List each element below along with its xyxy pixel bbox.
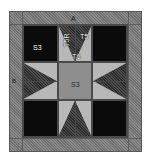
point-unit-seam-left [24,81,57,82]
label-border-left-b: B [12,78,16,84]
star-point-unit-bottom [58,100,93,137]
label-point-t6: T6 [72,53,81,60]
label-point-t5r: T5R [63,33,70,47]
star-point-unit-left [23,62,58,99]
label-point-t5: T5 [80,33,89,40]
border-seam-bottom [10,138,141,139]
point-unit-seam-right [93,81,126,82]
quilt-block-diagram: A B S3 S3 T5 T5R T6 [0,0,151,162]
label-border-top-a: A [71,15,76,22]
corner-square-top-right [92,25,127,62]
label-center-square-s3: S3 [71,81,80,88]
star-point-unit-right [92,62,127,99]
border-seam-right [128,12,129,151]
corner-square-bottom-left [23,100,58,137]
point-unit-seam-bottom [75,101,76,136]
corner-square-bottom-right [92,100,127,137]
label-corner-square-s3: S3 [33,44,42,51]
